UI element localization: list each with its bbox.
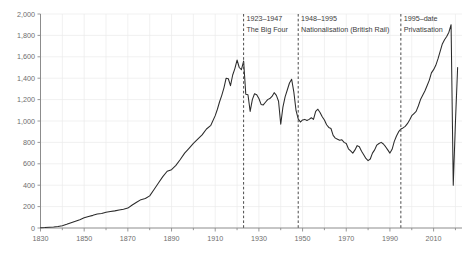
- y-axis-tick-label: 400: [23, 181, 35, 190]
- y-axis-tick-label: 1,400: [17, 74, 35, 83]
- chart-container: 02004006008001,0001,2001,4001,6001,8002,…: [0, 0, 465, 256]
- y-axis-tick-label: 2,000: [17, 10, 35, 19]
- y-axis-tick-label: 1,000: [17, 117, 35, 126]
- x-axis-tick-label: 1830: [33, 234, 49, 243]
- annotation-name-label: Privatisation: [404, 25, 443, 34]
- annotation-name-label: Nationalisation (British Rail): [301, 25, 389, 34]
- gridlines: [41, 14, 463, 228]
- x-axis-tick-label: 1990: [382, 234, 398, 243]
- x-axis-tick-label: 2010: [426, 234, 442, 243]
- y-axis-tick-label: 1,200: [17, 95, 35, 104]
- y-axis-tick-label: 0: [31, 224, 35, 233]
- rail-passenger-journeys-line-chart: 02004006008001,0001,2001,4001,6001,8002,…: [0, 0, 465, 256]
- x-axis-tick-label: 1890: [164, 234, 180, 243]
- x-axis-tick-label: 1950: [295, 234, 311, 243]
- axes: [38, 14, 463, 232]
- y-axis-tick-labels: 02004006008001,0001,2001,4001,6001,8002,…: [17, 10, 35, 233]
- annotation-name-label: The Big Four: [246, 25, 288, 34]
- annotation-period-label: 1923–1947: [246, 14, 282, 23]
- x-axis-tick-label: 1930: [251, 234, 267, 243]
- x-axis-tick-label: 1970: [338, 234, 354, 243]
- y-axis-tick-label: 600: [23, 159, 35, 168]
- annotation-period-label: 1948–1995: [301, 14, 337, 23]
- data-series-line: [41, 25, 458, 228]
- y-axis-tick-label: 800: [23, 138, 35, 147]
- y-axis-tick-label: 200: [23, 202, 35, 211]
- annotation-period-label: 1995–date: [404, 14, 438, 23]
- x-axis-tick-label: 1870: [120, 234, 136, 243]
- x-axis-tick-label: 1910: [207, 234, 223, 243]
- x-axis-tick-label: 1850: [76, 234, 92, 243]
- x-axis-tick-labels: 1830185018701890191019301950197019902010: [33, 234, 442, 243]
- y-axis-tick-label: 1,600: [17, 52, 35, 61]
- series-lines: [41, 25, 458, 228]
- y-axis-tick-label: 1,800: [17, 31, 35, 40]
